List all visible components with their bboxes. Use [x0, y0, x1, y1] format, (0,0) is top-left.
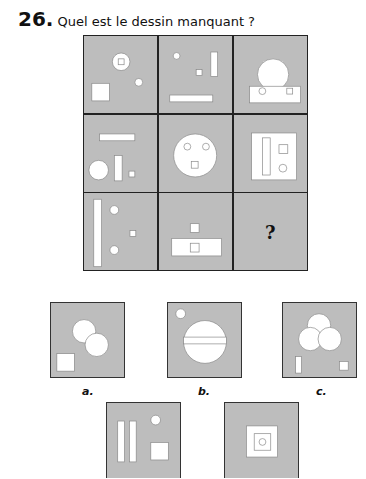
striped-circle-figure: [168, 303, 241, 377]
grid-cell-1-3: [234, 36, 307, 113]
circle-square-figure: [84, 36, 157, 113]
grid-cell-3-1: [84, 193, 157, 270]
grid-cell-1-2: [159, 36, 232, 113]
grid-cell-3-2: [159, 193, 232, 270]
three-circles-figure: [283, 303, 356, 377]
option-b-label: b.: [198, 385, 210, 398]
option-c[interactable]: [282, 302, 357, 378]
option-e[interactable]: [224, 402, 299, 478]
grid-cell-2-1: [84, 115, 157, 192]
option-c-label: c.: [316, 385, 327, 398]
mixed-shapes-figure: [84, 115, 157, 192]
framed-shapes-figure: [234, 115, 307, 192]
face-circle-figure: [159, 115, 232, 192]
stacked-squares-figure: [159, 193, 232, 270]
grid-cell-2-3: [234, 115, 307, 192]
question-number: 26.: [18, 7, 53, 31]
puzzle-grid: ?: [83, 35, 308, 271]
two-circles-figure: [51, 303, 124, 377]
grid-cell-1-1: [84, 36, 157, 113]
question-title: 26. Quel est le dessin manquant ?: [18, 7, 255, 31]
option-d[interactable]: [106, 402, 181, 478]
option-a-label: a.: [82, 385, 94, 398]
nested-squares-figure: [225, 403, 298, 478]
question-text: Quel est le dessin manquant ?: [58, 14, 255, 29]
grid-cell-3-3-missing: ?: [234, 193, 307, 270]
option-b[interactable]: [167, 302, 242, 378]
option-a[interactable]: [50, 302, 125, 378]
bars-figure: [159, 36, 232, 113]
tall-bar-figure: [84, 193, 157, 270]
question-mark: ?: [234, 221, 307, 242]
big-circle-rect-figure: [234, 36, 307, 113]
two-bars-figure: [107, 403, 180, 478]
grid-cell-2-2: [159, 115, 232, 192]
